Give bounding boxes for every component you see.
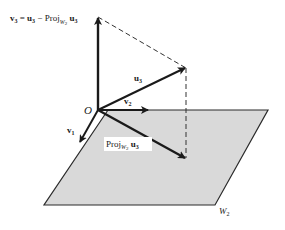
gram-schmidt-diagram: O v3 = u3 − ProjW2 u3 u3 v2 v1 ProjW2 u3… bbox=[0, 0, 285, 230]
dashed-line-top bbox=[98, 17, 186, 68]
plane-w2-label: W2 bbox=[219, 206, 230, 217]
plane-w2 bbox=[44, 110, 268, 205]
v1-label: v1 bbox=[67, 125, 75, 136]
vector-u3-arrow bbox=[98, 68, 185, 110]
u3-label: u3 bbox=[134, 73, 142, 84]
v2-label: v2 bbox=[124, 96, 132, 107]
v3-equation-label: v3 = u3 − ProjW2 u3 bbox=[10, 13, 77, 26]
origin-label: O bbox=[84, 104, 92, 116]
